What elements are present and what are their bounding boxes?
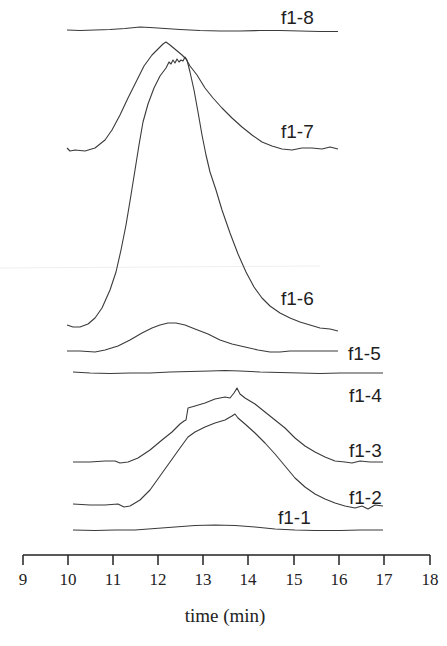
trace-f1-1 bbox=[73, 525, 383, 531]
x-axis: 9 10 11 12 13 14 15 16 17 18 time (min) bbox=[19, 555, 439, 627]
label-f1-4: f1-4 bbox=[349, 385, 382, 406]
tick-label: 10 bbox=[60, 570, 77, 589]
tick-label: 15 bbox=[286, 570, 303, 589]
label-f1-3: f1-3 bbox=[349, 440, 382, 461]
trace-f1-5 bbox=[67, 323, 338, 352]
chromatogram-chart: f1-8 f1-7 f1-6 f1-5 f1-4 f1-3 f1-2 f1-1 … bbox=[0, 0, 447, 646]
label-f1-5: f1-5 bbox=[348, 343, 381, 364]
tick-label: 17 bbox=[376, 570, 394, 589]
tick-label: 12 bbox=[150, 570, 167, 589]
tick-label: 13 bbox=[195, 570, 212, 589]
label-f1-7: f1-7 bbox=[281, 121, 314, 142]
tick-label: 11 bbox=[105, 570, 121, 589]
trace-f1-4 bbox=[73, 371, 383, 374]
tick-label: 9 bbox=[19, 570, 28, 589]
trace-f1-3 bbox=[73, 388, 383, 463]
label-f1-6: f1-6 bbox=[281, 288, 314, 309]
label-f1-1: f1-1 bbox=[278, 507, 311, 528]
scan-artifact-line bbox=[0, 266, 320, 268]
label-f1-8: f1-8 bbox=[281, 7, 314, 28]
tick-label: 18 bbox=[422, 570, 439, 589]
x-axis-title: time (min) bbox=[185, 605, 266, 627]
tick-label: 14 bbox=[240, 570, 258, 589]
label-f1-2: f1-2 bbox=[349, 487, 382, 508]
tick-label: 16 bbox=[331, 570, 348, 589]
